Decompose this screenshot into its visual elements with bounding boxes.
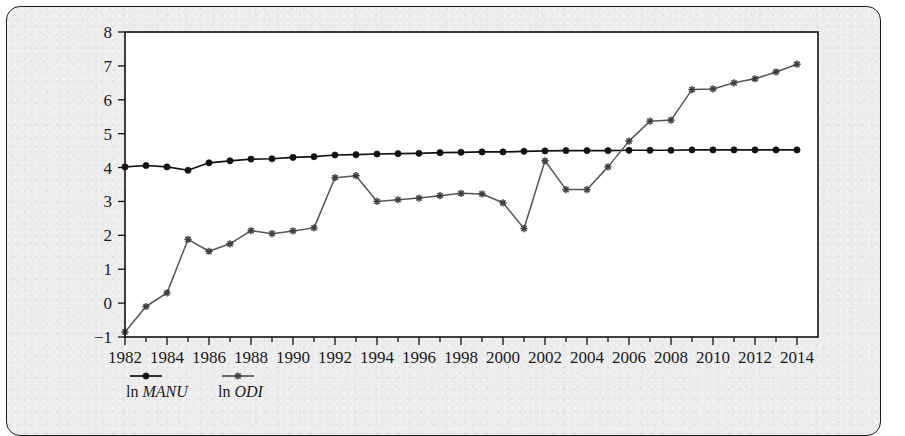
y-tick-label: −1 (94, 328, 112, 347)
data-point-ln-manu (773, 147, 779, 153)
data-point-ln-manu (332, 152, 338, 158)
y-axis: 876543210−1 (94, 23, 125, 347)
x-tick-label: 1992 (318, 348, 352, 367)
data-point-ln-manu (311, 154, 317, 160)
legend-item-manu[interactable]: ln MANU (126, 373, 189, 400)
x-tick-label: 2014 (780, 348, 815, 367)
data-point-ln-manu (269, 156, 275, 162)
data-point-ln-odi (457, 190, 464, 197)
data-point-ln-manu (563, 148, 569, 154)
data-point-ln-manu (374, 151, 380, 157)
data-point-ln-manu (668, 147, 674, 153)
data-point-ln-odi (709, 85, 716, 92)
data-point-ln-odi (289, 227, 296, 234)
data-point-ln-manu (689, 147, 695, 153)
x-tick-label: 1998 (444, 348, 478, 367)
data-point-ln-manu (437, 150, 443, 156)
x-tick-label: 2008 (654, 348, 688, 367)
data-point-ln-odi (541, 157, 548, 164)
x-tick-label: 1996 (402, 348, 436, 367)
data-point-ln-manu (395, 151, 401, 157)
x-tick-label: 2010 (696, 348, 730, 367)
data-point-ln-manu (500, 149, 506, 155)
data-point-ln-odi (625, 138, 632, 145)
data-point-ln-manu (626, 147, 632, 153)
data-point-ln-odi (688, 86, 695, 93)
x-tick-label: 1990 (276, 348, 310, 367)
y-tick-label: 4 (104, 159, 113, 178)
y-tick-label: 0 (104, 294, 113, 313)
x-tick-label: 1986 (192, 348, 226, 367)
data-point-ln-odi (478, 190, 485, 197)
data-point-ln-manu (752, 147, 758, 153)
data-point-ln-manu (542, 148, 548, 154)
data-point-ln-manu (185, 167, 191, 173)
data-point-ln-odi (667, 117, 674, 124)
data-point-ln-odi (751, 75, 758, 82)
data-point-ln-odi (646, 118, 653, 125)
data-point-ln-odi (226, 240, 233, 247)
data-point-ln-odi (268, 230, 275, 237)
data-point-ln-odi (520, 225, 527, 232)
data-point-ln-manu (794, 147, 800, 153)
x-tick-label: 2000 (486, 348, 520, 367)
data-point-ln-odi (205, 248, 212, 255)
legend-item-odi[interactable]: ln ODI (218, 372, 264, 400)
data-point-ln-manu (227, 158, 233, 164)
legend-label: ln MANU (126, 383, 189, 400)
data-point-ln-odi (436, 192, 443, 199)
y-tick-label: 5 (104, 125, 113, 144)
legend-marker-filled-circle-icon (143, 373, 149, 379)
data-point-ln-odi (331, 174, 338, 181)
data-point-ln-odi (772, 68, 779, 75)
data-point-ln-odi (352, 172, 359, 179)
x-axis: 1982198419861988199019921994199619982000… (108, 337, 815, 367)
x-tick-label: 2004 (570, 348, 605, 367)
data-point-ln-manu (710, 147, 716, 153)
data-point-ln-manu (416, 150, 422, 156)
y-tick-label: 8 (104, 23, 113, 42)
data-point-ln-odi (184, 236, 191, 243)
data-point-ln-manu (248, 156, 254, 162)
x-tick-label: 2012 (738, 348, 772, 367)
data-point-ln-odi (583, 186, 590, 193)
data-point-ln-odi (310, 224, 317, 231)
data-point-ln-odi (163, 289, 170, 296)
data-point-ln-manu (647, 147, 653, 153)
data-point-ln-odi (142, 303, 149, 310)
data-point-ln-manu (206, 160, 212, 166)
data-point-ln-manu (521, 148, 527, 154)
x-tick-label: 1984 (150, 348, 185, 367)
data-point-ln-manu (143, 162, 149, 168)
x-tick-label: 2002 (528, 348, 562, 367)
y-tick-label: 1 (104, 260, 113, 279)
data-point-ln-odi (730, 79, 737, 86)
x-tick-label: 1994 (360, 348, 395, 367)
data-point-ln-manu (584, 148, 590, 154)
data-point-ln-odi (415, 194, 422, 201)
data-point-ln-odi (373, 198, 380, 205)
x-tick-label: 1988 (234, 348, 268, 367)
data-point-ln-manu (458, 149, 464, 155)
data-point-ln-odi (247, 227, 254, 234)
data-point-ln-manu (731, 147, 737, 153)
y-tick-label: 6 (104, 91, 113, 110)
y-tick-label: 3 (104, 192, 113, 211)
x-tick-label: 1982 (108, 348, 142, 367)
data-point-ln-odi (793, 61, 800, 68)
legend-label: ln ODI (218, 383, 264, 400)
data-point-ln-odi (394, 196, 401, 203)
data-point-ln-odi (562, 186, 569, 193)
data-point-ln-manu (353, 152, 359, 158)
x-tick-label: 2006 (612, 348, 646, 367)
data-point-ln-manu (479, 149, 485, 155)
data-point-ln-manu (605, 148, 611, 154)
y-tick-label: 7 (104, 57, 113, 76)
chart-legend: ln MANUln ODI (126, 372, 264, 400)
plot-background (125, 32, 818, 337)
data-point-ln-manu (164, 164, 170, 170)
y-tick-label: 2 (104, 226, 113, 245)
data-point-ln-manu (290, 154, 296, 160)
